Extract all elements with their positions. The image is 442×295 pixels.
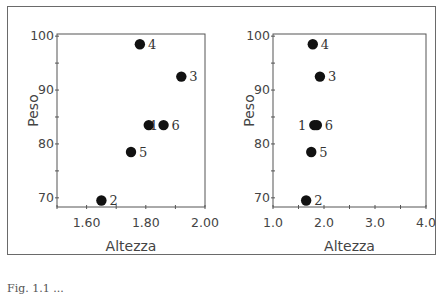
data-point-3 [176, 71, 186, 81]
plot-area-frame [57, 34, 205, 207]
figure-caption: Fig. 1.1 ... [7, 282, 64, 295]
x-tick-label: 2.0 [314, 215, 334, 230]
x-tick-label: 1.80 [132, 215, 160, 230]
data-point-label: 4 [321, 37, 329, 52]
data-point-label: 4 [148, 37, 156, 52]
x-tick-label: 1.60 [73, 215, 101, 230]
x-tick-label: 4.0 [416, 215, 436, 230]
x-axis-title: Altezza [106, 238, 157, 254]
data-point-6 [158, 120, 168, 130]
data-point-4 [135, 39, 145, 49]
data-point-5 [126, 147, 136, 157]
y-tick-label: 70 [254, 190, 270, 205]
data-point-4 [308, 39, 318, 49]
plot-area-frame [273, 34, 426, 207]
y-tick-label: 100 [30, 28, 54, 43]
x-tick-label: 1.0 [263, 215, 283, 230]
data-point-label: 3 [328, 69, 336, 84]
data-point-3 [315, 71, 325, 81]
x-tick-label: 3.0 [365, 215, 385, 230]
data-point-6 [312, 120, 322, 130]
scatter-plot-2: 7080901001.02.03.04.0AltezzaPeso123456 [241, 28, 436, 254]
x-tick-label: 2.00 [191, 215, 219, 230]
y-tick-label: 80 [38, 136, 54, 151]
data-point-2 [96, 195, 106, 205]
y-tick-label: 70 [38, 190, 54, 205]
data-point-label: 6 [172, 118, 180, 133]
scatter-plot-1: 7080901001.601.802.00AltezzaPeso123456 [25, 28, 219, 254]
data-point-label: 5 [319, 145, 327, 160]
data-point-label: 1 [150, 118, 158, 133]
y-axis-title: Peso [25, 94, 41, 126]
data-point-label: 6 [325, 118, 333, 133]
data-point-label: 3 [189, 69, 197, 84]
data-point-label: 1 [298, 118, 306, 133]
data-point-label: 5 [139, 145, 147, 160]
data-point-label: 2 [314, 193, 322, 208]
data-point-label: 2 [109, 193, 117, 208]
y-axis-title: Peso [241, 94, 257, 126]
x-axis-title: Altezza [324, 238, 375, 254]
data-point-2 [301, 195, 311, 205]
y-tick-label: 80 [254, 136, 270, 151]
y-tick-label: 100 [246, 28, 270, 43]
data-point-5 [306, 147, 316, 157]
